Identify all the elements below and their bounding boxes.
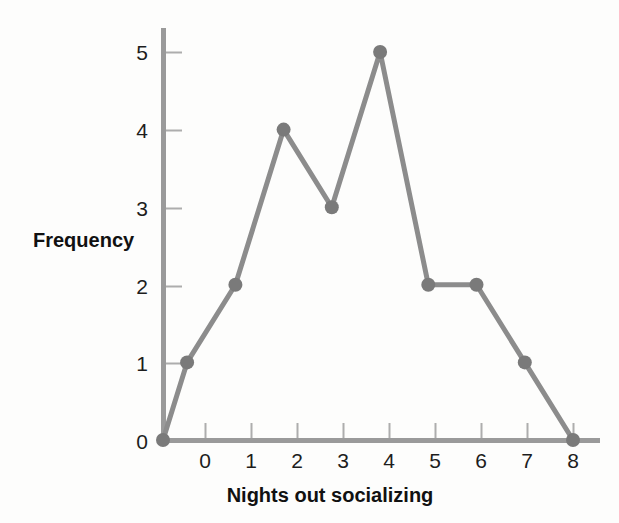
chart-page: 5 4 3 2 1 0 0 1 2 3 4 5 6 7 8 Frequency … bbox=[0, 0, 619, 523]
x-tick-label-0: 0 bbox=[199, 449, 211, 472]
data-point-8 bbox=[566, 433, 580, 447]
y-tick-label-1: 1 bbox=[136, 352, 148, 375]
data-point-7 bbox=[518, 355, 532, 369]
data-point-4 bbox=[373, 45, 387, 59]
x-axis-ticks bbox=[206, 423, 574, 438]
y-axis-title: Frequency bbox=[33, 229, 135, 251]
frequency-polygon-chart: 5 4 3 2 1 0 0 1 2 3 4 5 6 7 8 Frequency … bbox=[0, 0, 619, 523]
y-tick-label-0: 0 bbox=[136, 430, 148, 453]
data-point-0 bbox=[180, 355, 194, 369]
y-tick-label-2: 2 bbox=[136, 275, 148, 298]
series-line-frequency bbox=[163, 52, 573, 440]
data-point-3 bbox=[325, 200, 339, 214]
y-tick-label-3: 3 bbox=[136, 197, 148, 220]
data-point-6 bbox=[470, 278, 484, 292]
x-tick-label-6: 6 bbox=[475, 449, 487, 472]
y-axis-ticks bbox=[166, 53, 182, 364]
y-tick-label-5: 5 bbox=[136, 41, 148, 64]
x-tick-label-5: 5 bbox=[429, 449, 441, 472]
y-tick-labels: 5 4 3 2 1 0 bbox=[136, 41, 148, 453]
series-markers-frequency bbox=[156, 45, 580, 447]
x-tick-label-2: 2 bbox=[291, 449, 303, 472]
x-tick-label-1: 1 bbox=[245, 449, 257, 472]
data-point-1 bbox=[228, 278, 242, 292]
data-point-origin bbox=[156, 433, 170, 447]
data-point-2 bbox=[277, 123, 291, 137]
data-point-5 bbox=[421, 278, 435, 292]
x-tick-label-4: 4 bbox=[383, 449, 395, 472]
x-tick-label-7: 7 bbox=[521, 449, 533, 472]
x-tick-label-8: 8 bbox=[567, 449, 579, 472]
x-axis-title: Nights out socializing bbox=[227, 484, 434, 506]
y-tick-label-4: 4 bbox=[136, 119, 148, 142]
x-tick-label-3: 3 bbox=[337, 449, 349, 472]
x-tick-labels: 0 1 2 3 4 5 6 7 8 bbox=[199, 449, 579, 472]
